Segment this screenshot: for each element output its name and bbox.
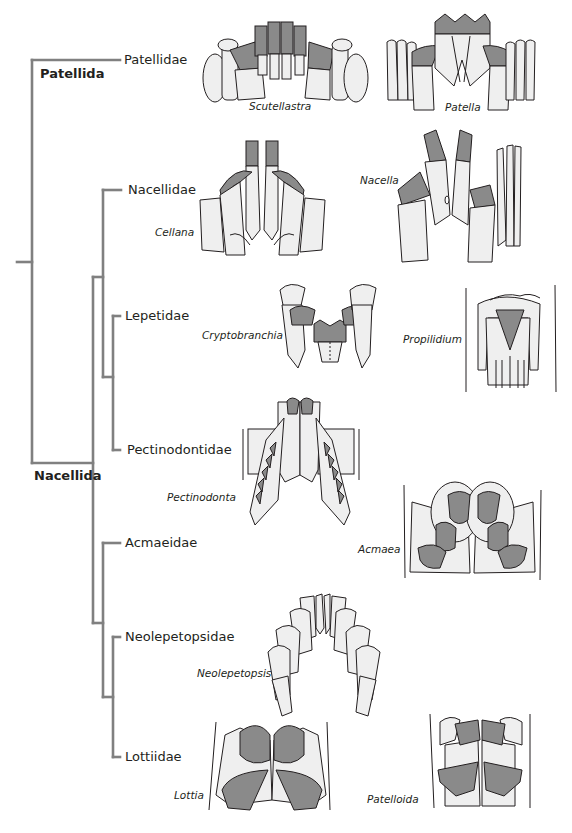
radula-propilidium-illustration xyxy=(466,285,556,392)
genus-label-propilidium: Propilidium xyxy=(403,333,462,345)
genus-label-patelloida: Patelloida xyxy=(367,793,419,805)
radula-acmaea-illustration xyxy=(404,482,541,580)
family-label-neolepetopsidae: Neolepetopsidae xyxy=(125,630,234,644)
radula-patella-illustration xyxy=(387,14,535,110)
order-label-nacellida: Nacellida xyxy=(34,469,102,483)
cladogram xyxy=(0,0,572,833)
family-label-lepetidae: Lepetidae xyxy=(125,309,189,323)
radula-patelloida-illustration xyxy=(430,714,530,808)
genus-label-neolepetopsis: Neolepetopsis xyxy=(197,667,271,679)
genus-label-scutellastra: Scutellastra xyxy=(249,100,311,112)
order-label-patellida: Patellida xyxy=(40,67,104,81)
family-label-pectinodontidae: Pectinodontidae xyxy=(127,443,232,457)
radula-neolepetopsis-illustration xyxy=(268,594,380,716)
radula-cellana-illustration xyxy=(200,141,325,255)
genus-label-cellana: Cellana xyxy=(155,226,194,238)
family-label-lottiidae: Lottiidae xyxy=(125,750,182,764)
family-label-nacellidae: Nacellidae xyxy=(128,183,196,197)
phylogeny-figure: Patellida Nacellida Patellidae Nacellida… xyxy=(0,0,572,833)
genus-label-pectinodonta: Pectinodonta xyxy=(167,491,236,503)
family-label-patellidae: Patellidae xyxy=(124,53,187,67)
genus-label-lottia: Lottia xyxy=(174,789,204,801)
genus-label-patella: Patella xyxy=(445,101,481,113)
genus-label-cryptobranchia: Cryptobranchia xyxy=(202,329,283,341)
radula-lottia-illustration xyxy=(209,722,330,810)
radula-nacella-illustration xyxy=(398,130,521,262)
family-label-acmaeidae: Acmaeidae xyxy=(125,536,197,550)
radula-scutellastra-illustration xyxy=(203,22,368,102)
tree-branches xyxy=(17,60,121,757)
genus-label-nacella: Nacella xyxy=(360,174,399,186)
radula-cryptobranchia-illustration xyxy=(280,284,376,368)
genus-label-acmaea: Acmaea xyxy=(358,543,401,555)
radula-pectinodonta-illustration xyxy=(243,398,359,525)
